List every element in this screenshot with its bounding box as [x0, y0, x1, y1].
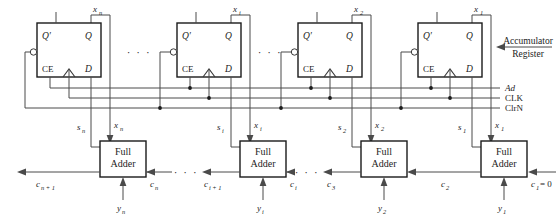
flipflop-1-ce-label: CE [423, 64, 435, 74]
adder-n-sum-sub: n [82, 127, 85, 134]
flipflop-2-q-label: Q [346, 31, 353, 41]
adder-i-cout-sub: i + 1 [209, 184, 221, 191]
flipflop-n-x-label: x [92, 4, 97, 14]
adder-2-line1: Full [376, 146, 392, 157]
adder-n-line2: Adder [111, 158, 137, 169]
adder-2-cout-label: c [327, 179, 331, 189]
flipflop-i-ce-inverter-bubble [170, 49, 176, 55]
adder-i-x-label: x [253, 120, 258, 130]
bus-ad-label: Ad [504, 83, 515, 93]
adder-i-x-sub: i [260, 125, 262, 132]
flipflop-i-q-label: Q [225, 31, 232, 41]
y-input-wires [120, 177, 508, 200]
flipflop-2[interactable]: Q′ Q CE D [291, 12, 362, 77]
flipflop-i[interactable]: Q′ Q CE D [170, 12, 241, 77]
adder-1-x-label: x [494, 120, 499, 130]
bus-ad-wire [50, 86, 500, 90]
adder-n-cout-label: c [36, 179, 40, 189]
adder-n-cout-sub: n + 1 [41, 184, 55, 191]
flipflop-1-ce-inverter-bubble [411, 49, 417, 55]
ellipsis-ff-2: · · · [258, 46, 283, 58]
adder-1-x-sub: 1 [501, 125, 504, 132]
adder-n-y-sub: n [122, 208, 125, 215]
flipflop-n-d-label: D [84, 64, 92, 74]
adder-1-sum-sub: 1 [463, 127, 466, 134]
bus-labels: Ad CLK ClrN [504, 83, 524, 113]
adder-n-cin-sub: n [155, 184, 158, 191]
adder-1-cout-sub: 2 [446, 184, 450, 191]
x-input-labels: x n x i x 2 x 1 [113, 120, 504, 132]
adder-1-cin-label: c [531, 179, 535, 189]
annotation-line-1: Accumulator [503, 36, 553, 46]
adder-2-y-label: y [377, 203, 382, 213]
flipflop-1-x-sub: 1 [480, 9, 483, 16]
carry-labels: c n + 1 c n c i + 1 c i c 3 c 2 c 1 = 0 [36, 179, 552, 191]
bus-clk-wire [69, 96, 500, 100]
flipflop-i-x-sub: i [239, 9, 241, 16]
accumulator-register-annotation: Accumulator Register [496, 36, 554, 59]
adder-1-line2: Adder [492, 158, 518, 169]
adder-2-sum-sub: 2 [343, 127, 347, 134]
x-input-droplines [107, 122, 495, 144]
sum-labels: s n s i s 2 s 1 [77, 122, 466, 134]
flipflop-2-d-label: D [345, 64, 353, 74]
flipflop-1-qbar-label: Q′ [423, 31, 433, 41]
adder-n-line1: Full [115, 146, 131, 157]
flipflop-n-output-label: x n [92, 4, 102, 16]
adder-2-x-label: x [374, 120, 379, 130]
adder-n[interactable]: Full Adder [100, 141, 146, 177]
adder-1-sum-label: s [458, 122, 462, 132]
adder-i[interactable]: Full Adder [240, 141, 286, 177]
flipflop-n[interactable]: Q′ Q CE D [30, 12, 101, 77]
flipflop-n-ce-inverter-bubble [30, 49, 36, 55]
flipflop-i-output-label: x i [232, 4, 241, 16]
adder-i-line2: Adder [251, 158, 277, 169]
flipflop-2-qbar-label: Q′ [303, 31, 313, 41]
adder-i-y-label: y [256, 203, 261, 213]
adder-n-y-label: y [116, 203, 121, 213]
adder-i-line1: Full [255, 146, 271, 157]
ellipsis-carry-2: · · · [295, 166, 320, 178]
adder-2-line2: Adder [372, 158, 398, 169]
adder-i-sum-sub: i [222, 127, 224, 134]
flipflop-n-ce-label: CE [42, 64, 54, 74]
adder-1-cout-label: c [441, 179, 445, 189]
bus-clk-label: CLK [505, 93, 524, 103]
flipflop-1-q-label: Q [466, 31, 473, 41]
adder-i-cout-label: c [204, 179, 208, 189]
y-input-labels: y n y i y 2 y 1 [116, 203, 506, 215]
adder-1-cin-value: = 0 [540, 179, 552, 189]
circuit-diagram-root: Q′ Q CE D x n Q′ Q CE D x i Q′ Q CE D x [0, 0, 559, 215]
adder-2-cout-sub: 3 [331, 184, 335, 191]
adder-1-y-sub: 1 [503, 208, 506, 215]
bus-clrn-label: ClrN [505, 103, 524, 113]
adder-n-x-label: x [113, 120, 118, 130]
flipflop-2-ce-inverter-bubble [291, 49, 297, 55]
adder-2-sum-label: s [338, 122, 342, 132]
ellipsis-ff-1: · · · [127, 46, 152, 58]
flipflop-n-x-sub: n [99, 9, 102, 16]
flipflop-1-output-label: x 1 [473, 4, 483, 16]
flipflop-i-d-label: D [224, 64, 232, 74]
flipflop-i-x-label: x [232, 4, 237, 14]
adder-2-x-sub: 2 [381, 125, 385, 132]
adder-n-sum-label: s [77, 122, 81, 132]
flipflop-1[interactable]: Q′ Q CE D [411, 12, 482, 77]
adder-2[interactable]: Full Adder [361, 141, 407, 177]
adder-1-cin-sub: 1 [536, 184, 539, 191]
flipflop-2-output-label: x 2 [353, 4, 364, 16]
adder-i-sum-label: s [217, 122, 221, 132]
adder-i-cin-label: c [290, 179, 294, 189]
flipflop-n-q-label: Q [85, 31, 92, 41]
adder-1-y-label: y [497, 203, 502, 213]
adder-2-y-sub: 2 [383, 208, 387, 215]
flipflop-2-ce-label: CE [303, 64, 315, 74]
flipflop-2-x-label: x [353, 4, 358, 14]
adder-n-cin-label: c [150, 179, 154, 189]
adder-1[interactable]: Full Adder [481, 141, 527, 177]
adder-1-line1: Full [496, 146, 512, 157]
accumulator-adder-schematic: Q′ Q CE D x n Q′ Q CE D x i Q′ Q CE D x [0, 0, 559, 215]
flipflop-i-qbar-label: Q′ [182, 31, 192, 41]
flipflop-i-ce-label: CE [182, 64, 194, 74]
adder-i-y-sub: i [262, 208, 264, 215]
